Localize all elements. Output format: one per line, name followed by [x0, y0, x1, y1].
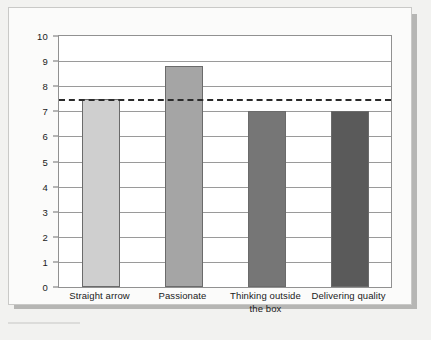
x-tick-label: Straight arrow	[58, 290, 141, 303]
y-tick-label: 5	[43, 156, 48, 167]
x-tick-label: Thinking outside the box	[224, 290, 307, 315]
y-tick-label: 9	[43, 56, 48, 67]
bars-layer	[59, 36, 391, 287]
y-tick-label: 7	[43, 106, 48, 117]
x-tick-label: Delivering quality	[307, 290, 390, 303]
y-tick-label: 2	[43, 231, 48, 242]
bar	[248, 111, 286, 287]
y-tick-label: 4	[43, 181, 48, 192]
chart-figure-card: 012345678910 Straight arrowPassionateThi…	[8, 7, 412, 305]
y-tick-label: 6	[43, 131, 48, 142]
x-tick-label: Passionate	[141, 290, 224, 303]
figure-drop-shadow-right	[412, 14, 417, 309]
bar	[82, 99, 120, 287]
average-reference-line	[59, 99, 391, 101]
y-tick-label: 10	[37, 31, 48, 42]
y-tick-label: 8	[43, 81, 48, 92]
y-tick-label: 3	[43, 206, 48, 217]
plot-area	[58, 35, 392, 288]
bar	[331, 111, 369, 287]
x-axis: Straight arrowPassionateThinking outside…	[58, 290, 392, 328]
y-tick-label: 1	[43, 256, 48, 267]
y-tick-label: 0	[43, 282, 48, 293]
y-axis: 012345678910	[9, 35, 58, 288]
caption-rule	[8, 322, 80, 324]
